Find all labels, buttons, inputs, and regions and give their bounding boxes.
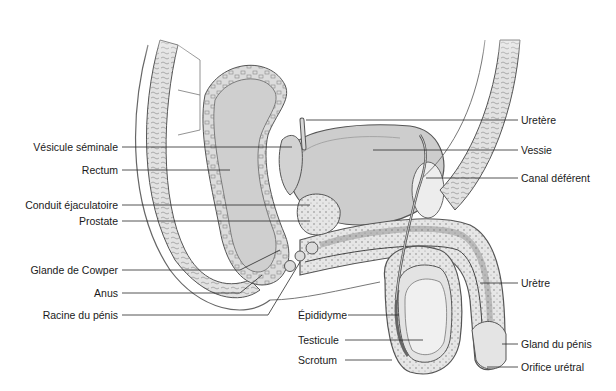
label-canal-deferent: Canal déférent — [521, 172, 590, 184]
anatomy-illustration — [0, 0, 616, 391]
label-vessie: Vessie — [521, 144, 552, 156]
label-epididyme: Épididyme — [298, 309, 347, 321]
label-uretre: Urètre — [521, 277, 550, 289]
label-prostate: Prostate — [79, 215, 118, 227]
label-orifice-uretral: Orifice urétral — [521, 361, 584, 373]
label-vesicule-seminale: Vésicule séminale — [33, 141, 118, 153]
label-racine-du-penis: Racine du pénis — [43, 309, 118, 321]
label-anus: Anus — [94, 287, 118, 299]
label-rectum: Rectum — [82, 164, 118, 176]
label-glande-de-cowper: Glande de Cowper — [30, 264, 118, 276]
label-gland-du-penis: Gland du pénis — [521, 338, 592, 350]
label-scrotum: Scrotum — [298, 354, 337, 366]
label-testicule: Testicule — [298, 334, 339, 346]
label-uretere: Uretère — [521, 114, 556, 126]
scrotum-testis — [384, 246, 461, 374]
label-conduit-ejaculatoire: Conduit éjaculatoire — [25, 199, 118, 211]
